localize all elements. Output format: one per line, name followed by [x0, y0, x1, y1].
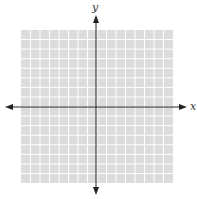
grid-svg	[0, 0, 197, 199]
x-axis-right-arrow-icon	[179, 104, 187, 110]
x-axis-label: x	[190, 101, 196, 112]
x-axis-left-arrow-icon	[5, 104, 13, 110]
y-axis-label: y	[92, 2, 98, 13]
y-axis-up-arrow-icon	[93, 15, 99, 23]
y-axis-down-arrow-icon	[93, 187, 99, 195]
